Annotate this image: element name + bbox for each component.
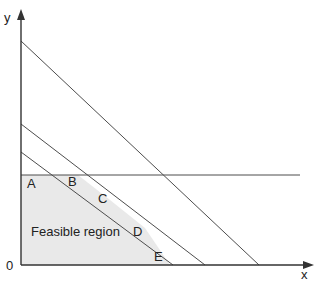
x-axis-label: x	[301, 268, 308, 281]
y-axis-label: y	[4, 11, 11, 24]
origin-label: 0	[6, 259, 13, 272]
vertex-label-d: D	[133, 225, 142, 238]
feasible-region-label: Feasible region	[31, 225, 120, 238]
figure-canvas: y x 0 A B C D E Feasible region	[0, 0, 321, 284]
feasible-region-plot	[0, 0, 321, 284]
vertex-label-c: C	[98, 192, 107, 205]
feasible-region-fill	[21, 175, 170, 265]
vertex-label-a: A	[27, 177, 36, 190]
vertex-label-b: B	[68, 175, 77, 188]
vertex-label-e: E	[154, 250, 163, 263]
y-axis-arrow-icon	[17, 9, 25, 20]
